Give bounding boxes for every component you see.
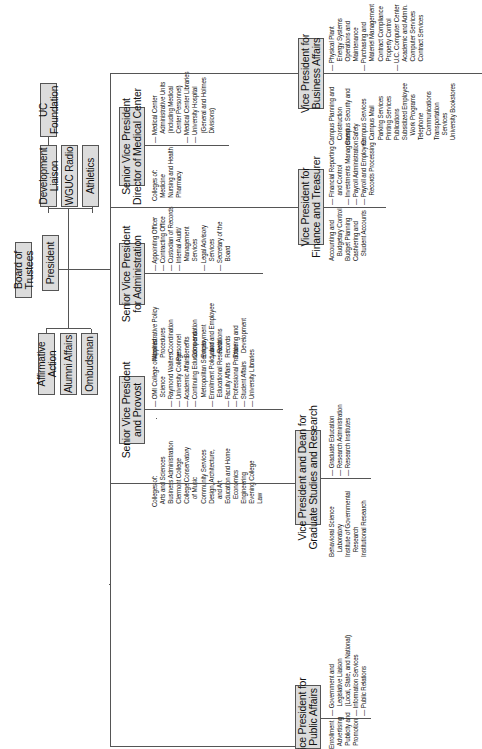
connector [48, 137, 49, 145]
vp-business-left-list: Campus Planning and Construction Campus … [328, 83, 458, 145]
connector [68, 255, 69, 263]
svp-medical-center-box: Senior Vice President Director of Medica… [119, 107, 145, 186]
vp-business-box: Vice President for Business Affairs [298, 38, 324, 109]
staff-athletics: Athletics [82, 145, 99, 207]
svp-medical-axis [145, 145, 229, 146]
connector [51, 269, 52, 270]
board-of-trustees-box: Board of Trustees [15, 242, 32, 298]
uc-foundation-box: UC Foundation [40, 83, 57, 137]
vp-business-axis [324, 73, 482, 74]
connector [91, 329, 92, 333]
bus-to-business [110, 73, 310, 74]
senior-bus [110, 73, 111, 747]
connector [46, 328, 91, 329]
vp-graduate-right-list: — Graduate Education — Research Administ… [328, 404, 352, 476]
vp-public-affairs-box: Vice President for Public Affairs [295, 685, 321, 749]
vp-public-right-list: — Government and Legislative Liaison (Lo… [328, 635, 368, 716]
connector [48, 207, 49, 213]
vp-graduate-left-list: Behavioral Science Laboratory Institute … [328, 491, 368, 557]
connector [46, 329, 47, 333]
staff-ombudsman: Ombudsman [81, 333, 98, 395]
vp-finance-left-list: Accounting and Budgetary Control Budget … [328, 209, 368, 261]
president-box: President [42, 235, 59, 291]
svp-admin-left-list: Administrative Policy Procedures Coordin… [151, 303, 248, 361]
svp-provost-left-list: Colleges of: Arts and Sciences Business … [151, 441, 264, 507]
connector [48, 208, 93, 209]
org-chart: Board of Trustees President UC Foundatio… [0, 0, 482, 749]
bus-to-public-affairs [110, 746, 312, 747]
svp-provost-box: Senior Vice President and Provost [119, 376, 145, 444]
vp-finance-box: Vice President for Finance and Treasurer [298, 169, 324, 245]
svp-provost-line [156, 418, 157, 419]
svp-medical-right-list: — Medical Center Administrative Units (i… [151, 71, 216, 143]
staff-development-liaison: Development Liaison [40, 145, 57, 207]
svp-provost-axis [145, 409, 283, 410]
svp-medical-left-list: Colleges of: Medicine Nursing and Health… [151, 147, 183, 201]
connector [92, 207, 93, 213]
president-spine [59, 269, 111, 270]
svp-admin-axis [145, 273, 263, 274]
staff-alumni-affairs: Alumni Affairs [60, 333, 77, 395]
vp-public-left-list: Enrollment Advertising Publicity and Pro… [328, 712, 360, 749]
bus-to-finance [110, 207, 310, 208]
svp-admin-right-list: — Appointing Officer — Contracting Offic… [151, 206, 232, 271]
staff-affirmative-action: Affirmative Action [38, 333, 55, 395]
staff-wguc-radio: WGUC Radio [61, 145, 78, 207]
vp-business-right-list: — Physical Plant Energy Systems Operatio… [328, 4, 425, 71]
bus-to-graduate [110, 483, 310, 484]
vp-graduate-axis [321, 478, 371, 479]
vp-graduate-box: Vice President and Dean for Graduate Stu… [295, 430, 321, 525]
svp-administration-box: Senior Vice President for Administration [119, 243, 145, 305]
